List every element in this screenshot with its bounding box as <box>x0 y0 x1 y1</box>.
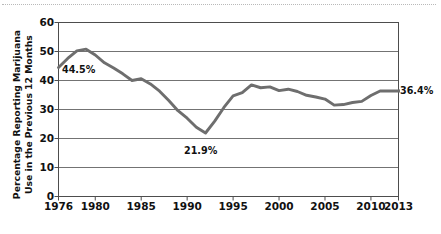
marijuana-use-line-chart: Percentage Reporting Marijuana Use in th… <box>0 0 441 234</box>
x-tick-label: 1985 <box>116 200 166 212</box>
y-tick-label: 50 <box>32 45 54 57</box>
x-tick-label: 2013 <box>374 200 424 212</box>
y-tick-label: 60 <box>32 16 54 28</box>
y-tick-label: 40 <box>32 74 54 86</box>
axis-ticks <box>55 23 399 201</box>
y-tick-label: 30 <box>32 103 54 115</box>
plot-area <box>0 0 441 234</box>
annotation-minimum-value: 21.9% <box>184 145 217 156</box>
x-tick-label: 1990 <box>162 200 212 212</box>
gridlines <box>59 52 399 168</box>
x-tick-label: 1995 <box>208 200 258 212</box>
data-series-line <box>59 49 399 133</box>
x-tick-label: 2005 <box>300 200 350 212</box>
y-tick-label: 20 <box>32 132 54 144</box>
annotation-end-value: 36.4% <box>400 85 433 96</box>
x-tick-label: 2000 <box>254 200 304 212</box>
annotation-start-value: 44.5% <box>62 64 95 75</box>
x-tick-label: 1980 <box>70 200 120 212</box>
y-tick-label: 10 <box>32 161 54 173</box>
